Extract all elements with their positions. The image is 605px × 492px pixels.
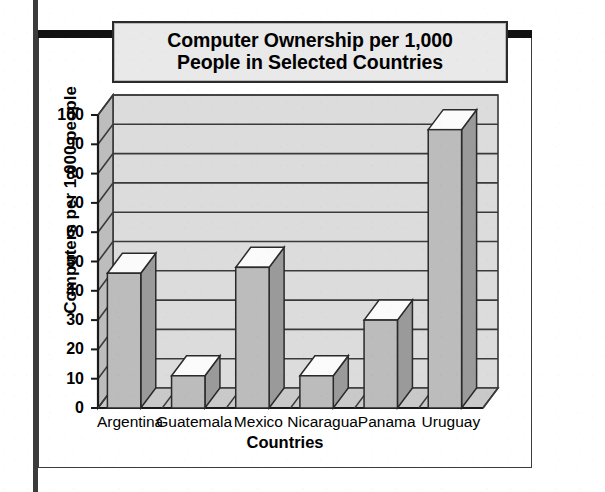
x-axis-title: Countries — [38, 433, 532, 452]
y-axis-tick-label: 50 — [42, 254, 84, 270]
y-axis-tick-label: 30 — [42, 312, 84, 328]
y-axis-tick-label: 0 — [42, 400, 84, 416]
chart-title-line-1: Computer Ownership per 1,000 — [167, 29, 452, 51]
y-axis-tick-label: 60 — [42, 224, 84, 240]
bar-chart-graphic — [38, 30, 532, 468]
chart-title-plate: Computer Ownership per 1,000 People in S… — [112, 21, 508, 83]
chart-title: Computer Ownership per 1,000 People in S… — [167, 30, 452, 74]
y-axis-tick-label: 90 — [42, 136, 84, 152]
y-axis-tick-label: 80 — [42, 166, 84, 182]
y-axis-tick-label: 40 — [42, 283, 84, 299]
chart-plot-area: Computers per 1,000 people Countries 010… — [38, 30, 532, 468]
y-axis-tick-label: 10 — [42, 371, 84, 387]
y-axis-tick-label: 100 — [42, 107, 84, 123]
chart-title-line-2: People in Selected Countries — [177, 51, 443, 73]
y-axis-tick-label: 70 — [42, 195, 84, 211]
y-axis-tick-label: 20 — [42, 341, 84, 357]
x-axis-tick-label: Uruguay — [407, 414, 495, 430]
